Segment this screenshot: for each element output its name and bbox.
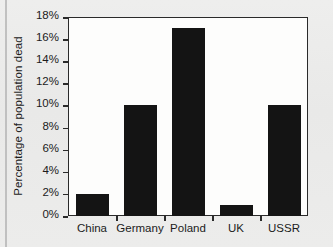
bar bbox=[220, 205, 253, 216]
x-tick-label: USSR bbox=[260, 222, 308, 234]
y-axis-label: Percentage of population dead bbox=[12, 21, 24, 211]
bar bbox=[124, 105, 157, 216]
bar-chart: Percentage of population dead 0%2%4%6%8%… bbox=[0, 0, 333, 247]
bar-series bbox=[68, 17, 308, 216]
y-tick-mark bbox=[63, 216, 68, 218]
y-tick-label: 18% bbox=[36, 9, 59, 21]
x-tick-mark bbox=[164, 216, 166, 221]
x-tick-label: Germany bbox=[116, 222, 164, 234]
y-tick-label: 0% bbox=[42, 208, 59, 220]
x-tick-mark bbox=[212, 216, 214, 221]
chart-page: Percentage of population dead 0%2%4%6%8%… bbox=[0, 0, 333, 247]
y-tick-label: 2% bbox=[42, 186, 59, 198]
x-tick-label: Poland bbox=[164, 222, 212, 234]
y-tick-label: 8% bbox=[42, 120, 59, 132]
y-tick-label: 4% bbox=[42, 164, 59, 176]
x-tick-label: UK bbox=[212, 222, 260, 234]
bar bbox=[172, 28, 205, 216]
y-tick-label: 12% bbox=[36, 75, 59, 87]
bar bbox=[76, 194, 109, 216]
bar bbox=[268, 105, 301, 216]
y-tick-label: 16% bbox=[36, 31, 59, 43]
y-tick-label: 6% bbox=[42, 142, 59, 154]
y-tick-label: 10% bbox=[36, 97, 59, 109]
x-tick-mark bbox=[260, 216, 262, 221]
x-tick-label: China bbox=[68, 222, 116, 234]
y-tick-label: 14% bbox=[36, 53, 59, 65]
x-tick-mark bbox=[116, 216, 118, 221]
